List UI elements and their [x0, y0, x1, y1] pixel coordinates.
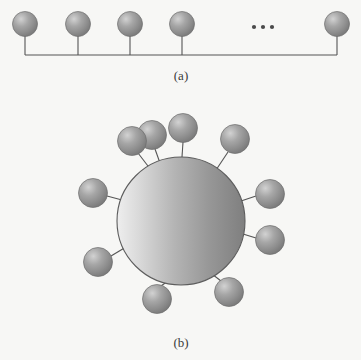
ellipsis-dot	[261, 25, 265, 29]
ellipsis-dot	[270, 25, 274, 29]
monomer-sphere	[170, 12, 195, 37]
satellite-sphere	[79, 179, 108, 208]
figure-root: (a)	[0, 0, 361, 360]
satellite-sphere	[256, 226, 285, 255]
satellite-sphere	[84, 248, 113, 277]
panel-a-caption: (a)	[174, 68, 188, 83]
ellipsis-dot	[252, 25, 256, 29]
satellite-sphere	[169, 114, 198, 143]
monomer-sphere	[325, 12, 350, 37]
satellite-sphere	[118, 127, 147, 156]
monomer-sphere	[118, 12, 143, 37]
core-sphere	[117, 157, 245, 285]
ellipsis-continuation	[252, 25, 274, 29]
polymer-architecture-diagram: (a)	[0, 0, 361, 360]
panel-b-caption: (b)	[173, 335, 188, 350]
satellite-sphere	[256, 180, 285, 209]
monomer-sphere	[66, 12, 91, 37]
satellite-sphere	[215, 278, 244, 307]
monomer-sphere	[13, 12, 38, 37]
satellite-sphere	[143, 285, 172, 314]
satellite-sphere	[221, 125, 250, 154]
